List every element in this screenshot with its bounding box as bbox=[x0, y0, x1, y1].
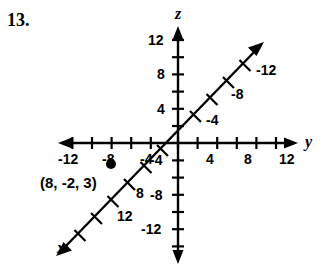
plotted-point-label: (8, -2, 3) bbox=[40, 175, 97, 190]
y-axis-positive-arrowhead bbox=[284, 138, 298, 149]
z-axis-label-12: 12 bbox=[148, 33, 164, 47]
y-axis-label-8: 8 bbox=[244, 152, 252, 166]
x-axis-name: x bbox=[57, 240, 65, 256]
x-axis-label-neg12: -12 bbox=[256, 63, 276, 77]
x-axis-negative-arrowhead bbox=[248, 42, 264, 56]
x-axis-ticks bbox=[75, 60, 251, 241]
y-axis-label-neg4: -4 bbox=[140, 152, 152, 166]
x-axis-label-neg4: -4 bbox=[206, 113, 218, 127]
z-axis-label-8: 8 bbox=[157, 67, 165, 81]
z-axis-positive-arrowhead bbox=[173, 26, 184, 40]
y-axis-negative-arrowhead bbox=[58, 138, 72, 149]
y-axis-label-4: 4 bbox=[206, 152, 214, 166]
y-axis-name: y bbox=[305, 134, 312, 150]
x-axis-label-neg8: -8 bbox=[231, 87, 243, 101]
y-axis-label-neg8: -8 bbox=[102, 152, 114, 166]
y-axis-label-12: 12 bbox=[279, 152, 295, 166]
axes-drawing bbox=[0, 0, 328, 274]
coordinate-system-figure: 13. bbox=[0, 0, 328, 274]
z-axis-name: z bbox=[175, 6, 181, 22]
x-axis-label-8: 8 bbox=[136, 186, 144, 200]
z-axis-line bbox=[172, 26, 184, 264]
x-axis-label-12: 12 bbox=[117, 209, 133, 223]
y-axis-label-neg12: -12 bbox=[58, 152, 78, 166]
z-axis-label-neg12: -12 bbox=[141, 222, 161, 236]
z-axis-negative-arrowhead bbox=[173, 250, 184, 264]
z-axis-label-neg8: -8 bbox=[150, 188, 162, 202]
z-axis-label-4: 4 bbox=[157, 102, 165, 116]
